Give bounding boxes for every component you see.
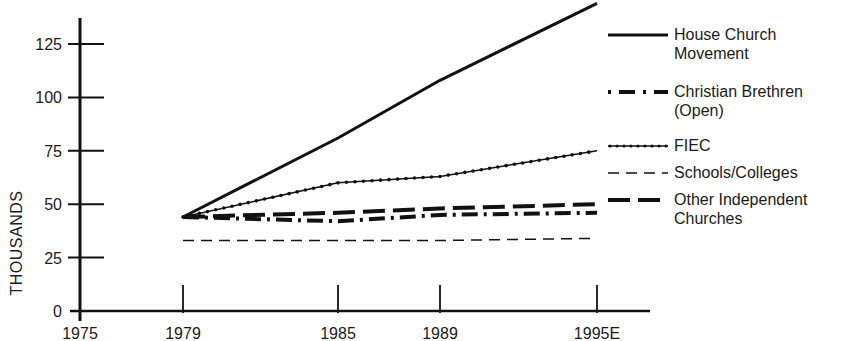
legend-item: Schools/Colleges bbox=[608, 164, 798, 181]
fiec-bead bbox=[587, 150, 591, 154]
fiec-bead bbox=[214, 208, 218, 212]
fiec-bead bbox=[312, 186, 316, 190]
fiec-bead bbox=[238, 203, 242, 207]
axes bbox=[70, 18, 650, 321]
fiec-bead bbox=[353, 180, 357, 184]
fiec-bead bbox=[304, 188, 308, 192]
legend: House ChurchMovementChristian Brethren(O… bbox=[608, 26, 808, 227]
x-tick-label: 1975 bbox=[62, 325, 98, 341]
fiec-bead bbox=[206, 210, 210, 214]
fiec-bead bbox=[396, 177, 400, 181]
fiec-bead bbox=[554, 156, 558, 160]
x-ticks: 19751979198519891995E bbox=[62, 285, 620, 341]
x-tick-label: 1989 bbox=[422, 325, 458, 341]
fiec-bead bbox=[222, 206, 226, 210]
fiec-bead bbox=[546, 157, 550, 161]
legend-item: Other IndependentChurches bbox=[608, 191, 808, 227]
legend-label: (Open) bbox=[674, 102, 724, 119]
fiec-bead bbox=[570, 153, 574, 157]
fiec-bead bbox=[446, 173, 450, 177]
series-line-house-church-movement bbox=[183, 3, 597, 217]
fiec-bead bbox=[379, 178, 383, 182]
fiec-bead bbox=[345, 181, 349, 185]
fiec-bead bbox=[404, 177, 408, 181]
fiec-bead bbox=[480, 168, 484, 172]
fiec-bead bbox=[455, 172, 459, 176]
fiec-bead bbox=[230, 204, 234, 208]
x-tick-label: 1979 bbox=[165, 325, 201, 341]
y-ticks: 0255075100125 bbox=[35, 36, 104, 320]
y-tick-label: 25 bbox=[44, 250, 62, 267]
fiec-bead bbox=[562, 154, 566, 158]
y-axis-title: THOUSANDS bbox=[8, 191, 25, 296]
legend-item: Christian Brethren(Open) bbox=[608, 83, 803, 119]
series-lines bbox=[181, 3, 597, 240]
line-chart: 0255075100125 19751979198519891995E THOU… bbox=[0, 0, 855, 341]
legend-label: Other Independent bbox=[674, 191, 808, 208]
legend-label: Christian Brethren bbox=[674, 83, 803, 100]
x-tick-label: 1995E bbox=[574, 325, 620, 341]
legend-label: Movement bbox=[674, 45, 749, 62]
fiec-bead bbox=[496, 165, 500, 169]
fiec-bead bbox=[537, 158, 541, 162]
fiec-bead bbox=[387, 178, 391, 182]
legend-label: House Church bbox=[674, 26, 776, 43]
fiec-bead bbox=[263, 197, 267, 201]
fiec-bead bbox=[438, 175, 442, 179]
fiec-bead bbox=[529, 160, 533, 164]
fiec-bead bbox=[271, 195, 275, 199]
fiec-bead bbox=[328, 183, 332, 187]
y-tick-label: 125 bbox=[35, 36, 62, 53]
fiec-bead bbox=[421, 176, 425, 180]
fiec-bead bbox=[513, 162, 517, 166]
y-tick-label: 100 bbox=[35, 89, 62, 106]
fiec-bead bbox=[279, 194, 283, 198]
legend-label: Churches bbox=[674, 210, 742, 227]
fiec-bead bbox=[579, 152, 583, 156]
fiec-bead bbox=[370, 179, 374, 183]
fiec-bead bbox=[471, 169, 475, 173]
series-line-schools-colleges bbox=[183, 238, 597, 240]
legend-item: House ChurchMovement bbox=[608, 26, 776, 62]
fiec-bead bbox=[521, 161, 525, 165]
fiec-bead bbox=[463, 171, 467, 175]
legend-label: FIEC bbox=[674, 137, 710, 154]
fiec-bead bbox=[362, 179, 366, 183]
fiec-bead bbox=[287, 192, 291, 196]
y-tick-label: 75 bbox=[44, 143, 62, 160]
fiec-bead bbox=[295, 190, 299, 194]
fiec-bead bbox=[255, 199, 259, 203]
x-tick-label: 1985 bbox=[320, 325, 356, 341]
fiec-bead bbox=[504, 164, 508, 168]
y-tick-label: 50 bbox=[44, 196, 62, 213]
fiec-bead bbox=[430, 175, 434, 179]
legend-label: Schools/Colleges bbox=[674, 164, 798, 181]
legend-item: FIEC bbox=[608, 137, 710, 154]
fiec-bead bbox=[320, 185, 324, 189]
fiec-bead bbox=[488, 167, 492, 171]
fiec-bead bbox=[246, 201, 250, 205]
y-tick-label: 0 bbox=[53, 303, 62, 320]
fiec-bead bbox=[336, 181, 340, 185]
fiec-bead bbox=[413, 176, 417, 180]
